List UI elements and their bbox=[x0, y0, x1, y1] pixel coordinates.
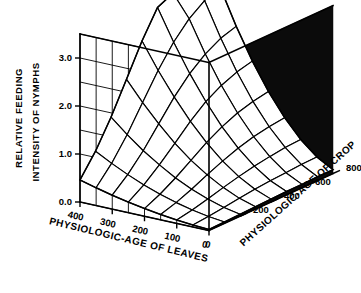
z-tick-label: 1.0 bbox=[59, 148, 72, 159]
x-tick-label-zero: 0 bbox=[204, 238, 212, 250]
z-tick-label: 3.0 bbox=[59, 52, 72, 63]
y-tick-label: 800 bbox=[346, 162, 361, 173]
z-axis-title-line1: RELATIVE FEEDING bbox=[13, 68, 24, 168]
z-axis-title: RELATIVE FEEDING INTENSITY OF NYMPHS bbox=[13, 62, 41, 181]
z-axis-title-line2: INTENSITY OF NYMPHS bbox=[30, 62, 41, 181]
z-tick-label: 0.0 bbox=[59, 196, 72, 207]
surface-plot-figure: 0.01.02.03.040030020010002004006008000 R… bbox=[0, 0, 361, 293]
z-tick-label: 2.0 bbox=[59, 100, 72, 111]
y-tick-mark bbox=[333, 170, 340, 173]
surface-plot-svg: 0.01.02.03.040030020010002004006008000 R… bbox=[0, 0, 361, 293]
